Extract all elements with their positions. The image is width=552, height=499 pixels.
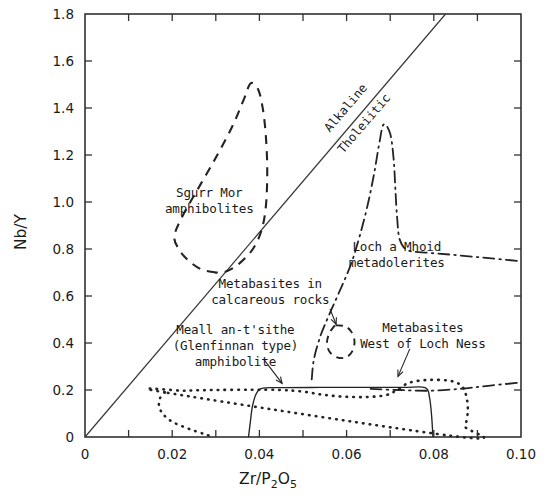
x-axis-ticks bbox=[129, 14, 478, 437]
annotation-line: Metabasites bbox=[382, 320, 463, 335]
y-tick-label: 1.8 bbox=[53, 6, 74, 22]
y-axis-title-text: Nb/Y bbox=[12, 213, 30, 250]
x-axis-title-sub-5: 5 bbox=[290, 478, 297, 491]
y-tick-label: 0.8 bbox=[53, 241, 74, 257]
field-outline bbox=[174, 83, 267, 273]
x-axis-tick-labels: 00.020.040.060.080.10 bbox=[81, 446, 536, 462]
x-axis-title: Zr/P2O5 bbox=[239, 470, 297, 491]
annotation-line: amphibolite bbox=[195, 354, 276, 369]
svg-text:Zr/P2O5: Zr/P2O5 bbox=[239, 470, 297, 491]
annotation-line: calcareous rocks bbox=[211, 292, 329, 307]
annotation-metabasites-calcareous: Metabasites incalcareous rocks bbox=[211, 276, 329, 307]
y-tick-label: 0.2 bbox=[53, 382, 74, 398]
annotation-loch-a-mhoid: Loch a Mhoidmetadolerites bbox=[349, 239, 445, 270]
annotation-line: Meall an-t'sithe bbox=[176, 322, 294, 337]
x-axis-title-sub-2: 2 bbox=[271, 478, 278, 491]
y-tick-label: 1.4 bbox=[53, 100, 74, 116]
x-tick-label: 0.08 bbox=[419, 446, 449, 462]
y-tick-label: 0.4 bbox=[53, 335, 74, 351]
annotation-meall-an-tsithe: Meall an-t'sithe(Glenfinnan type)amphibo… bbox=[173, 322, 299, 369]
y-tick-label: 1.0 bbox=[53, 194, 74, 210]
y-tick-label: 1.6 bbox=[53, 53, 74, 69]
compositional-fields bbox=[147, 83, 521, 439]
plot-frame bbox=[85, 14, 521, 437]
x-tick-label: 0.04 bbox=[244, 446, 274, 462]
annotation-line: Loch a Mhoid bbox=[352, 239, 441, 254]
annotation-line: amphibolites bbox=[165, 201, 254, 216]
x-axis-title-main: Zr/P bbox=[239, 470, 271, 488]
annotation-line: West of Loch Ness bbox=[360, 336, 486, 351]
field-outline bbox=[249, 387, 433, 437]
x-tick-label: 0.10 bbox=[506, 446, 536, 462]
field-outline bbox=[371, 382, 521, 390]
figure-container: 00.020.040.060.080.10 00.20.40.60.81.01.… bbox=[0, 0, 552, 499]
chart-canvas: 00.020.040.060.080.10 00.20.40.60.81.01.… bbox=[0, 0, 552, 499]
x-axis-title-mid: O bbox=[278, 470, 290, 488]
y-tick-label: 1.2 bbox=[53, 147, 74, 163]
x-tick-label: 0.02 bbox=[157, 446, 187, 462]
y-tick-label: 0 bbox=[65, 429, 74, 445]
annotation-line: Sgurr Mor bbox=[176, 185, 243, 200]
divider-line bbox=[85, 14, 446, 437]
annotation-line: Metabasites in bbox=[219, 276, 322, 291]
annotation-sgurr-mor: Sgurr Moramphibolites bbox=[165, 185, 254, 216]
annotation-line: (Glenfinnan type) bbox=[173, 338, 299, 353]
field-annotations: Sgurr MoramphibolitesMetabasites incalca… bbox=[165, 185, 486, 368]
annotation-line: metadolerites bbox=[349, 255, 445, 270]
x-tick-label: 0.06 bbox=[332, 446, 362, 462]
leader-metabasites-west-loch-ness bbox=[398, 349, 410, 377]
annotation-metabasites-west-loch-ness: MetabasitesWest of Loch Ness bbox=[360, 320, 486, 351]
alkaline-tholeiitic-divider: AlkalineTholeiitic bbox=[85, 14, 446, 437]
field-outline bbox=[159, 392, 214, 437]
field-outline bbox=[327, 325, 355, 358]
y-axis-title: Nb/Y bbox=[12, 213, 30, 250]
x-tick-label: 0 bbox=[81, 446, 90, 462]
y-axis-tick-labels: 00.20.40.60.81.01.21.41.61.8 bbox=[53, 6, 74, 445]
y-tick-label: 0.6 bbox=[53, 288, 74, 304]
field-outline bbox=[147, 380, 484, 439]
